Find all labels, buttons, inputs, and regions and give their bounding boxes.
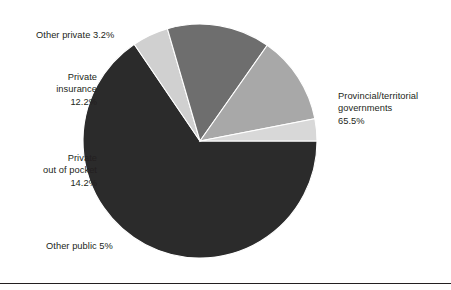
pie-label-other-public: Other public 5% — [46, 240, 186, 252]
pie-slices — [83, 24, 317, 258]
footer-divider-rule — [0, 283, 451, 284]
pie-label-provincial-territorial-governments: Provincial/territorial governments 65.5% — [338, 90, 451, 127]
pie-chart-figure: Other private 3.2% Private insurance 12.… — [0, 0, 451, 290]
pie-label-private-insurance: Private insurance 12.2% — [0, 71, 97, 108]
pie-label-private-out-of-pocket: Private out of pocket 14.2% — [0, 152, 97, 189]
pie-label-other-private: Other private 3.2% — [36, 29, 186, 41]
